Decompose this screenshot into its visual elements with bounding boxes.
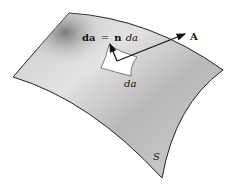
area-element-label: da xyxy=(124,78,136,89)
surface-diagram: da = n da A da S xyxy=(0,0,234,187)
vector-a-label: A xyxy=(189,31,198,42)
equation-label: da = n da xyxy=(82,32,138,43)
surface-label: S xyxy=(153,151,160,162)
